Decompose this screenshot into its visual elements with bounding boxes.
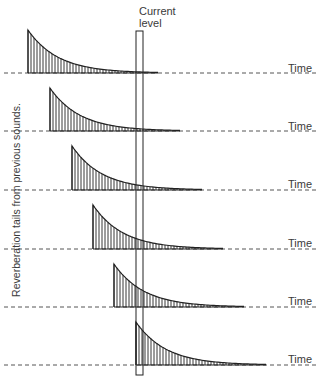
reverberation-tails-axis-label: Reverberation tails from previous sounds… xyxy=(10,103,22,297)
reverberation-tail-row-3 xyxy=(4,146,318,190)
current-level-label-line1: Current xyxy=(139,5,189,17)
reverberation-tail-row-1 xyxy=(4,30,318,73)
decay-envelope xyxy=(136,322,266,365)
current-level-label: Current level xyxy=(139,5,189,29)
decay-bars xyxy=(136,322,262,365)
reverberation-tail-row-6 xyxy=(4,322,318,365)
time-label-row-3: Time xyxy=(288,178,312,190)
reverberation-tail-row-5 xyxy=(4,264,318,307)
decay-bars xyxy=(50,88,176,131)
decay-bars xyxy=(72,146,198,190)
time-label-row-1: Time xyxy=(288,62,312,74)
decay-bars xyxy=(28,30,154,73)
decay-envelope xyxy=(50,88,180,131)
decay-envelope xyxy=(28,30,158,73)
decay-envelope xyxy=(72,146,202,190)
time-label-row-6: Time xyxy=(288,353,312,365)
decay-envelope xyxy=(114,264,244,307)
reverberation-tail-row-2 xyxy=(4,88,318,131)
time-label-row-5: Time xyxy=(288,295,312,307)
time-label-row-2: Time xyxy=(288,120,312,132)
current-level-label-line2: level xyxy=(139,17,189,29)
reverberation-diagram xyxy=(0,0,323,382)
decay-envelope xyxy=(93,205,223,249)
decay-bars xyxy=(93,205,219,249)
reverberation-tail-row-4 xyxy=(4,205,318,249)
decay-bars xyxy=(114,264,240,307)
time-label-row-4: Time xyxy=(288,237,312,249)
